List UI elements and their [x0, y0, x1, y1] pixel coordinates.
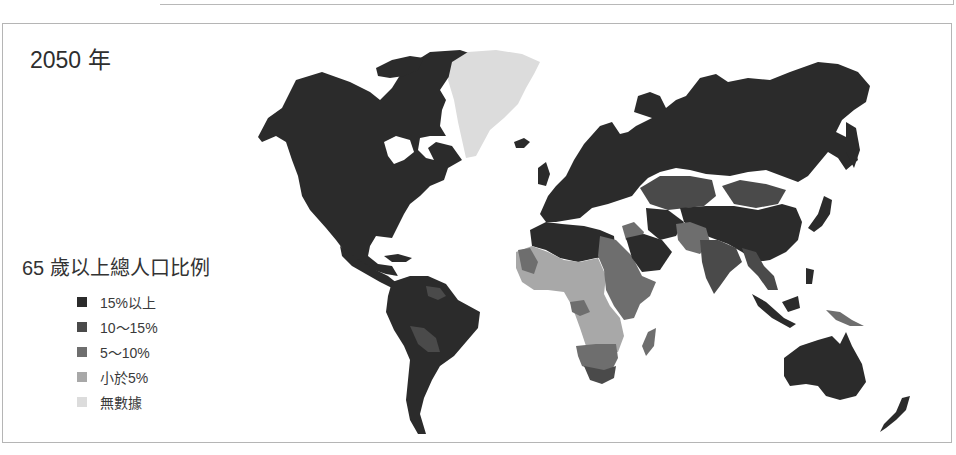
- region-india: [700, 240, 742, 294]
- region-australia: [784, 332, 866, 400]
- legend-label: 5～10%: [100, 342, 150, 362]
- legend-item: 小於5%: [77, 364, 210, 389]
- region-new-zealand: [880, 396, 910, 432]
- region-mongolia: [722, 180, 786, 208]
- world-choropleth-map: [240, 40, 956, 445]
- legend-swatch-no-data: [77, 397, 87, 407]
- region-north-america: [258, 50, 478, 276]
- legend-label: 15%以上: [100, 292, 156, 312]
- legend-items: 15%以上 10～15% 5～10% 小於5% 無數據: [77, 289, 210, 414]
- legend-item: 無數據: [77, 389, 210, 414]
- legend-item: 5～10%: [77, 339, 210, 364]
- legend-swatch-5-10: [77, 347, 87, 357]
- legend-swatch-15-plus: [77, 297, 87, 307]
- year-title: 2050 年: [30, 41, 111, 75]
- region-kazakhstan: [640, 176, 716, 210]
- legend-item: 15%以上: [77, 289, 210, 314]
- legend-item: 10～15%: [77, 314, 210, 339]
- region-papua-new-guinea: [826, 310, 864, 326]
- previous-panel-border-right: [953, 0, 954, 5]
- region-caribbean: [384, 254, 412, 262]
- legend: 65 歲以上總人口比例 15%以上 10～15% 5～10% 小於5% 無數據: [22, 252, 210, 414]
- region-madagascar: [642, 328, 656, 356]
- legend-label: 10～15%: [100, 317, 158, 337]
- region-south-america: [386, 276, 480, 434]
- legend-label: 無數據: [100, 392, 142, 412]
- legend-swatch-under-5: [77, 372, 87, 382]
- region-iceland: [514, 138, 530, 148]
- region-japan: [808, 196, 832, 232]
- previous-panel-border: [160, 4, 953, 5]
- legend-title: 65 歲以上總人口比例: [22, 252, 210, 281]
- legend-label: 小於5%: [100, 367, 148, 387]
- region-uk: [538, 162, 550, 186]
- legend-swatch-10-15: [77, 322, 87, 332]
